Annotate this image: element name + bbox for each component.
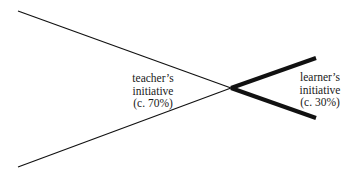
teacher-label-line-3: (c. 70%)	[124, 97, 182, 110]
teacher-label-line-2: initiative	[124, 85, 182, 98]
learner-label-line-2: initiative	[292, 84, 348, 97]
teacher-label-line-1: teacher’s	[124, 72, 182, 85]
learner-label-line-3: (c. 30%)	[292, 96, 348, 109]
learner-label-line-1: learner’s	[292, 71, 348, 84]
teacher-initiative-label: teacher’s initiative (c. 70%)	[124, 72, 182, 110]
learner-initiative-label: learner’s initiative (c. 30%)	[292, 71, 348, 109]
